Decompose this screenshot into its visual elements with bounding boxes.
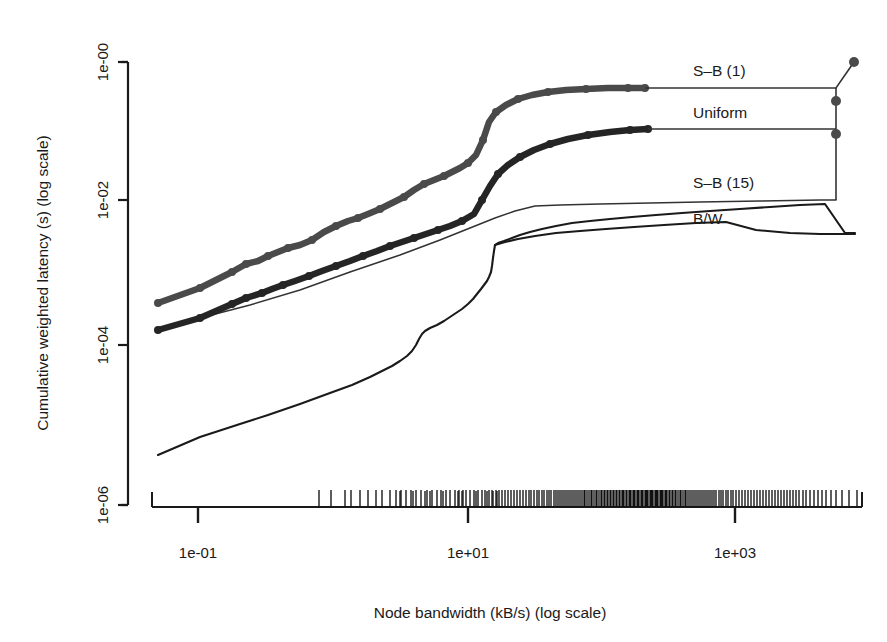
line-chart-svg: 1e-00 1e-02 1e-04 1e-06 Cumulative weigh…: [0, 0, 887, 642]
terminal-point-uniform: [831, 96, 841, 106]
leader-line-sb1: [645, 62, 854, 88]
series-line-uniform: [158, 129, 648, 330]
y-axis: [118, 62, 128, 505]
y-tick-label-1e-02: 1e-02: [94, 181, 111, 219]
series-label-sb15: S–B (15): [693, 174, 754, 191]
y-tick-label-1e-00: 1e-00: [94, 43, 111, 81]
y-tick-labels: 1e-00 1e-02 1e-04 1e-06: [94, 43, 111, 524]
series-label-uniform: Uniform: [693, 104, 747, 121]
terminal-point-sb15: [831, 129, 841, 139]
x-rug-plot: [319, 490, 857, 507]
series-markers-uniform: [154, 125, 652, 334]
terminal-point-sb1: [849, 57, 859, 67]
series-line-sb15: [158, 200, 836, 330]
x-tick-label-1e-01: 1e-01: [179, 544, 217, 561]
series-label-sb1: S–B (1): [693, 62, 746, 79]
x-tick-label-1e+01: 1e+01: [447, 544, 489, 561]
x-axis-title: Node bandwidth (kB/s) (log scale): [374, 604, 607, 621]
series-line-bw-tail: [495, 222, 855, 245]
x-tick-label-1e+03: 1e+03: [714, 544, 756, 561]
x-tick-labels: 1e-01 1e+01 1e+03: [179, 544, 756, 561]
y-axis-title: Cumulative weighted latency (s) (log sca…: [34, 135, 51, 430]
series-label-bw: B/W: [693, 210, 723, 227]
chart-figure: 1e-00 1e-02 1e-04 1e-06 Cumulative weigh…: [0, 0, 887, 642]
y-tick-label-1e-06: 1e-06: [94, 486, 111, 524]
x-axis: [152, 492, 862, 523]
y-tick-label-1e-04: 1e-04: [94, 326, 111, 364]
